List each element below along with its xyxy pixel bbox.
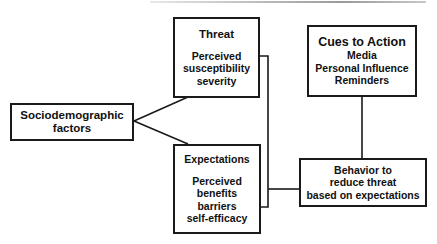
threat-line-3: severity xyxy=(197,75,237,88)
cues-line-3: Reminders xyxy=(335,74,389,87)
node-behavior: Behavior to reduce threat based on expec… xyxy=(299,158,427,207)
edge-socio-threat xyxy=(134,97,188,121)
edge-socio-expectations xyxy=(134,121,188,144)
cues-line-2: Personal Influence xyxy=(315,62,408,75)
expectations-line-3: barriers xyxy=(197,200,236,213)
socio-line-1: Sociodemographic xyxy=(20,109,124,122)
behavior-line-2: reduce threat xyxy=(330,176,397,189)
socio-line-2: factors xyxy=(53,122,91,135)
behavior-line-3: based on expectations xyxy=(306,189,419,202)
node-expectations: Expectations Perceived benefits barriers… xyxy=(173,144,261,234)
threat-line-1: Perceived xyxy=(192,50,242,63)
expectations-line-4: self-efficacy xyxy=(187,212,248,225)
node-sociodemographic: Sociodemographic factors xyxy=(10,103,134,141)
cues-line-1: Media xyxy=(347,49,377,62)
expectations-line-1: Perceived xyxy=(192,175,242,188)
expectations-line-2: benefits xyxy=(197,187,237,200)
expectations-title: Expectations xyxy=(184,153,249,166)
behavior-line-1: Behavior to xyxy=(334,164,392,177)
node-cues-to-action: Cues to Action Media Personal Influence … xyxy=(307,25,417,97)
threat-line-2: susceptibility xyxy=(183,62,250,75)
cues-title: Cues to Action xyxy=(318,35,406,49)
threat-title: Threat xyxy=(199,28,234,41)
node-threat: Threat Perceived susceptibility severity xyxy=(173,17,260,98)
